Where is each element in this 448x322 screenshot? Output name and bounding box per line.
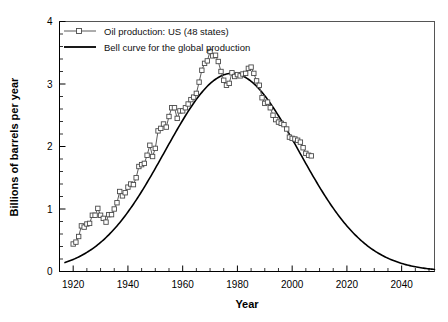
data-point-marker [118,189,122,193]
data-point-marker [219,69,223,73]
data-point-marker [134,176,138,180]
data-point-marker [96,206,100,210]
y-axis-ticks [60,22,66,272]
data-point-marker [222,78,226,82]
data-point-marker [284,127,288,131]
x-axis-tick-labels: 1920194019601980200020202040 [62,279,413,290]
x-tick-label: 1980 [226,279,249,290]
data-point-marker [216,59,220,63]
data-point-marker [257,83,261,87]
x-tick-label: 2020 [336,279,359,290]
data-point-marker [93,213,97,217]
data-point-marker [265,100,269,104]
data-point-marker [109,212,113,216]
data-point-marker [282,122,286,126]
x-tick-label: 2000 [281,279,304,290]
data-point-marker [164,125,168,129]
y-tick-label: 0 [47,266,53,277]
x-tick-label: 1920 [62,279,85,290]
data-point-marker [205,59,209,63]
x-tick-label: 1960 [172,279,195,290]
us-oil-production-markers [71,49,314,246]
x-axis-ticks [60,266,435,272]
oil-production-chart: 1920194019601980200020202040 01234 Year … [0,0,448,322]
data-point-marker [76,234,80,238]
data-point-marker [167,114,171,118]
data-point-marker [115,201,119,205]
y-tick-label: 2 [47,141,53,152]
x-tick-label: 2040 [391,279,414,290]
data-point-marker [74,240,78,244]
data-point-marker [104,220,108,224]
data-point-marker [268,106,272,110]
data-point-marker [172,106,176,110]
data-point-marker [194,91,198,95]
data-point-marker [150,154,154,158]
y-tick-label: 3 [47,79,53,90]
plot-frame [60,22,435,272]
bell-curve-path [65,73,435,269]
data-point-marker [153,146,157,150]
bell-curve-series [65,73,435,269]
chart-legend: Oil production: US (48 states) Bell curv… [64,26,250,53]
us-oil-production-series [71,49,314,246]
data-point-marker [254,79,258,83]
data-point-marker [200,68,204,72]
data-point-marker [249,65,253,69]
data-point-marker [186,102,190,106]
data-point-marker [87,221,91,225]
data-point-marker [148,143,152,147]
x-tick-label: 1940 [117,279,140,290]
x-axis-label: Year [235,298,259,310]
legend-label-us-oil-production: Oil production: US (48 states) [104,26,229,37]
y-axis-tick-labels: 01234 [47,16,53,277]
data-point-marker [142,161,146,165]
data-point-marker [145,153,149,157]
plot-area-border [60,22,435,272]
chart-canvas: 1920194019601980200020202040 01234 Year … [0,0,448,322]
y-axis-label: Billions of barrels per year [8,77,20,216]
y-tick-label: 4 [47,16,53,27]
data-point-marker [301,146,305,150]
data-point-marker [213,53,217,57]
y-tick-label: 1 [47,204,53,215]
data-point-marker [123,191,127,195]
data-point-marker [112,207,116,211]
data-point-marker [197,80,201,84]
data-point-marker [159,126,163,130]
data-point-marker [309,154,313,158]
legend-swatch-marker-series [77,29,82,34]
legend-label-bell-curve: Bell curve for the global production [104,42,250,53]
data-point-marker [252,71,256,75]
data-point-marker [260,96,264,100]
data-point-marker [175,116,179,120]
data-point-marker [271,113,275,117]
data-point-marker [298,140,302,144]
data-point-marker [243,71,247,75]
data-point-marker [131,182,135,186]
data-point-marker [227,81,231,85]
